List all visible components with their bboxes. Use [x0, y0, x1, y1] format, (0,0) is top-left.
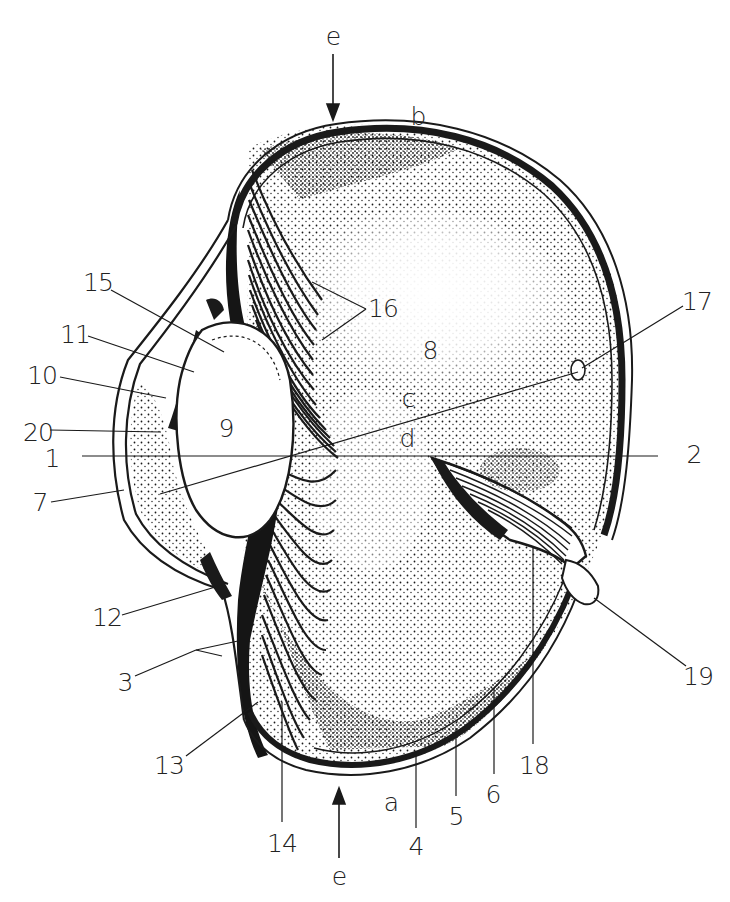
label-7: 7	[33, 490, 48, 515]
label-8: 8	[423, 338, 438, 363]
vessel-17	[571, 360, 585, 380]
ciliary-muscle	[206, 298, 224, 320]
label-13: 13	[154, 753, 184, 778]
label-19: 19	[683, 664, 713, 689]
label-15: 15	[83, 270, 113, 295]
label-14: 14	[267, 831, 297, 856]
label-4: 4	[409, 834, 424, 859]
label-a: a	[384, 790, 398, 815]
label-c: c	[402, 386, 415, 411]
label-d: d	[400, 426, 415, 451]
label-11: 11	[60, 322, 90, 347]
label-5: 5	[449, 804, 464, 829]
label-12: 12	[92, 605, 122, 630]
label-10: 10	[27, 363, 57, 388]
label-9: 9	[219, 416, 234, 441]
label-2: 2	[687, 442, 702, 467]
label-e-bottom: e	[332, 864, 346, 889]
label-18: 18	[519, 753, 549, 778]
lens	[177, 322, 294, 537]
label-e-top: e	[326, 24, 340, 49]
eye-illustration	[0, 0, 730, 902]
label-b: b	[411, 104, 426, 129]
eye-cross-section-diagram: 1 2 a b c d e e 3 4 5 6 7 8 9 10 11 12 1…	[0, 0, 730, 902]
label-1: 1	[45, 446, 60, 471]
arrow-e-top	[327, 54, 339, 120]
label-17: 17	[682, 289, 712, 314]
label-3: 3	[118, 670, 133, 695]
iris-lower	[200, 552, 232, 600]
label-16: 16	[368, 296, 398, 321]
label-6: 6	[486, 782, 501, 807]
label-20: 20	[23, 420, 53, 445]
arrow-e-bottom	[333, 788, 345, 858]
